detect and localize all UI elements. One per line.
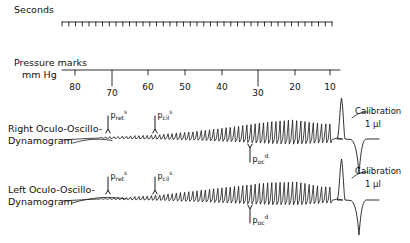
marker-arrow-p-ret-left [106,177,110,194]
seconds-scale-ruler [62,22,332,26]
marker-arrow-p-ret-right [106,116,110,133]
marker-arrow-p-oc-right [248,144,252,162]
calibration-pulse-top [337,98,379,174]
trace-right-oscillogram [62,120,342,144]
calibration-bottom-bracket [352,172,368,178]
trace-left-oscillogram [62,182,342,205]
calibration-pulse-bottom [337,159,379,235]
figure-drawing-canvas [0,0,410,243]
calibration-top-bracket [352,112,368,118]
marker-arrow-p-cil-right [153,116,157,133]
pressure-scale-ruler [62,70,340,86]
oculo-oscillo-dynamogram-figure: Seconds Pressure marks mm Hg Right Oculo… [0,0,410,243]
right-trace-leader-line [73,139,112,143]
marker-arrow-p-cil-left [153,177,157,194]
marker-arrow-p-oc-left [248,205,252,223]
